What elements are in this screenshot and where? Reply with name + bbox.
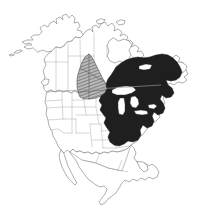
water-lake-michigan xyxy=(118,98,125,115)
north-america-map xyxy=(0,0,205,221)
range-map-figure xyxy=(0,0,205,221)
